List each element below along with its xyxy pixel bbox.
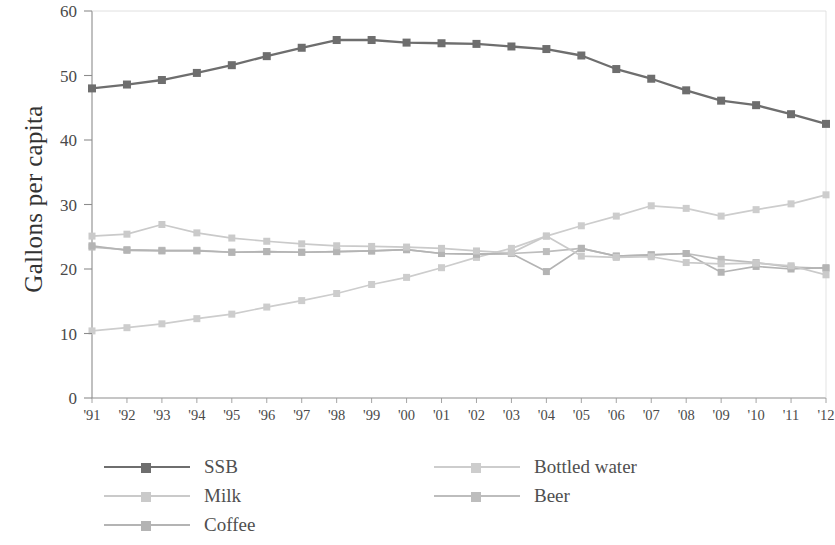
series-marker	[753, 260, 760, 267]
legend-marker	[471, 492, 481, 502]
series-marker	[158, 76, 166, 84]
series-marker	[578, 245, 585, 252]
x-tick-label: '96	[258, 407, 275, 423]
y-tick-label: 40	[60, 131, 77, 150]
series-marker	[612, 65, 620, 73]
x-tick-label: '04	[538, 407, 556, 423]
legend-swatch-icon	[104, 489, 190, 503]
legend-swatch-icon	[434, 460, 520, 474]
x-tick-label: '98	[328, 407, 345, 423]
series-marker	[717, 97, 725, 105]
series-marker	[613, 254, 620, 261]
series-line	[92, 225, 826, 275]
y-tick-label: 0	[69, 389, 78, 408]
y-axis-ticks: 0102030405060	[60, 2, 92, 408]
x-tick-label: '11	[783, 407, 800, 423]
x-tick-label: '95	[223, 407, 240, 423]
series-line	[92, 40, 826, 124]
y-tick-label: 60	[60, 2, 77, 21]
series-marker	[438, 264, 445, 271]
beverage-consumption-chart: Gallons per capita '91'92'93'94'95'96'97…	[0, 0, 835, 545]
legend-marker	[141, 521, 151, 531]
series-marker	[193, 247, 200, 254]
series-marker	[543, 233, 550, 240]
legend-item-beer[interactable]: Beer	[434, 481, 637, 510]
series-marker	[123, 247, 130, 254]
x-tick-label: '03	[503, 407, 520, 423]
series-marker	[578, 253, 585, 260]
legend-item-coffee[interactable]: Coffee	[104, 510, 255, 539]
series-marker	[648, 202, 655, 209]
legend-column: Bottled waterBeer	[434, 452, 637, 510]
series-marker	[683, 205, 690, 212]
series-marker	[263, 238, 270, 245]
legend-marker	[141, 492, 151, 502]
axis-spine	[92, 11, 826, 398]
legend-item-ssb[interactable]: SSB	[104, 452, 255, 481]
series-marker	[823, 271, 830, 278]
series-marker	[228, 235, 235, 242]
data-series	[88, 36, 830, 334]
axes	[92, 11, 826, 398]
legend-marker	[141, 463, 151, 473]
series-marker	[823, 264, 830, 271]
series-marker	[263, 52, 271, 60]
x-tick-label: '12	[817, 407, 834, 423]
series-marker	[123, 231, 130, 238]
series-marker	[647, 75, 655, 83]
x-tick-label: '94	[188, 407, 206, 423]
series-marker	[88, 84, 96, 92]
legend-item-bottled-water[interactable]: Bottled water	[434, 452, 637, 481]
series-marker	[543, 268, 550, 275]
legend-item-milk[interactable]: Milk	[104, 481, 255, 510]
legend-label: Beer	[520, 485, 570, 507]
legend-label: SSB	[190, 456, 238, 478]
series-marker	[298, 297, 305, 304]
series-marker	[683, 259, 690, 266]
series-marker	[193, 229, 200, 236]
legend-label: Bottled water	[520, 456, 637, 478]
series-marker	[543, 248, 550, 255]
y-tick-label: 20	[60, 260, 77, 279]
series-marker	[403, 39, 411, 47]
series-marker	[158, 247, 165, 254]
y-tick-label: 30	[60, 196, 77, 215]
x-axis-ticks: '91'92'93'94'95'96'97'98'99'00'01'02'03'…	[83, 398, 834, 423]
series-marker	[403, 274, 410, 281]
series-marker	[718, 213, 725, 220]
series-marker	[333, 290, 340, 297]
series-marker	[228, 249, 235, 256]
x-tick-label: '06	[608, 407, 625, 423]
series-marker	[788, 200, 795, 207]
series-marker	[333, 36, 341, 44]
series-marker	[438, 39, 446, 47]
series-marker	[613, 213, 620, 220]
series-marker	[787, 110, 795, 118]
legend-swatch-icon	[104, 518, 190, 532]
x-tick-label: '93	[153, 407, 170, 423]
series-marker	[123, 81, 131, 89]
series-marker	[158, 221, 165, 228]
legend-swatch-icon	[434, 489, 520, 503]
x-tick-label: '01	[433, 407, 450, 423]
series-marker	[577, 52, 585, 60]
x-tick-label: '99	[363, 407, 380, 423]
series-marker	[823, 191, 830, 198]
series-marker	[89, 242, 96, 249]
series-marker	[508, 249, 515, 256]
series-marker	[298, 249, 305, 256]
x-tick-label: '05	[573, 407, 590, 423]
series-marker	[718, 269, 725, 276]
chart-legend: SSBMilkCoffeeBottled waterBeer	[104, 452, 804, 540]
series-marker	[473, 247, 480, 254]
series-marker	[718, 260, 725, 267]
series-marker	[298, 44, 306, 52]
series-marker	[89, 233, 96, 240]
x-tick-label: '97	[293, 407, 310, 423]
legend-label: Milk	[190, 485, 241, 507]
series-marker	[123, 324, 130, 331]
y-tick-label: 50	[60, 67, 77, 86]
series-marker	[648, 253, 655, 260]
series-marker	[578, 222, 585, 229]
x-tick-label: '91	[83, 407, 100, 423]
